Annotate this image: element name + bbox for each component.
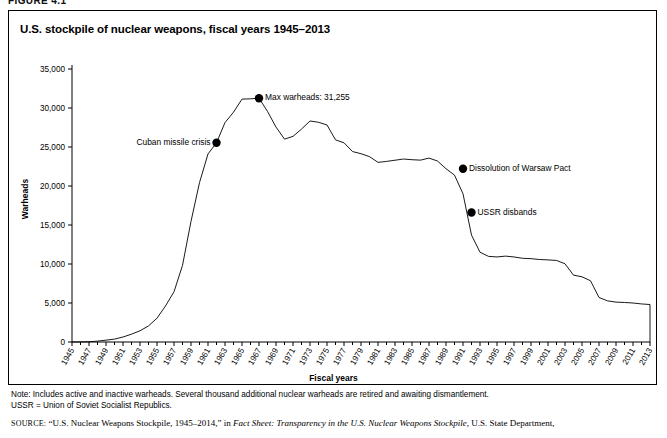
svg-text:1975: 1975 (314, 346, 331, 367)
line-chart: 05,00010,00015,00020,00025,00030,00035,0… (9, 11, 658, 386)
figure-notes: Note: Includes active and inactive warhe… (11, 390, 656, 411)
svg-text:2003: 2003 (552, 346, 569, 367)
svg-text:20,000: 20,000 (40, 182, 65, 191)
svg-text:1977: 1977 (331, 346, 348, 367)
svg-text:1953: 1953 (127, 346, 144, 367)
svg-text:1961: 1961 (195, 346, 212, 367)
svg-text:1949: 1949 (93, 346, 110, 367)
annotation-dot (467, 208, 475, 216)
svg-text:1999: 1999 (518, 346, 535, 367)
svg-text:1973: 1973 (297, 346, 314, 367)
note-line-2: USSR = Union of Soviet Socialist Republi… (11, 401, 656, 412)
annotation-label: USSR disbands (478, 208, 537, 217)
annotation-label: Max warheads: 31,255 (265, 93, 350, 102)
svg-text:0: 0 (60, 338, 65, 347)
svg-text:1959: 1959 (178, 346, 195, 367)
figure-border-box: U.S. stockpile of nuclear weapons, fisca… (8, 10, 657, 385)
svg-text:15,000: 15,000 (40, 221, 65, 230)
svg-text:1963: 1963 (212, 346, 229, 367)
svg-text:25,000: 25,000 (40, 143, 65, 152)
svg-text:1995: 1995 (484, 346, 501, 367)
svg-text:2001: 2001 (535, 346, 552, 367)
note-line-1: Note: Includes active and inactive warhe… (11, 390, 656, 401)
svg-text:1989: 1989 (433, 346, 450, 367)
svg-text:2011: 2011 (621, 346, 638, 366)
y-axis-label: Warheads (20, 179, 30, 219)
svg-text:1971: 1971 (280, 346, 297, 367)
annotation-label: Dissolution of Warsaw Pact (469, 164, 571, 173)
y-axis-label-holder: Warheads (31, 11, 32, 386)
figure-page: FIGURE 4.1 U.S. stockpile of nuclear wea… (0, 0, 667, 438)
x-axis-label: Fiscal years (9, 373, 658, 383)
svg-text:1985: 1985 (399, 346, 416, 367)
source-italic-title: Fact Sheet: Transparency in the U.S. Nuc… (233, 418, 467, 428)
svg-text:1993: 1993 (467, 346, 484, 367)
svg-text:2009: 2009 (603, 346, 620, 367)
svg-text:1969: 1969 (263, 346, 280, 367)
svg-text:1951: 1951 (110, 346, 127, 367)
svg-text:2013: 2013 (637, 346, 654, 367)
svg-text:10,000: 10,000 (40, 260, 65, 269)
svg-text:1983: 1983 (382, 346, 399, 367)
svg-text:1965: 1965 (229, 346, 246, 367)
source-part-2: , U.S. State Department, (467, 418, 555, 428)
source-prefix: SOURCE: (11, 419, 46, 428)
svg-text:1979: 1979 (348, 346, 365, 367)
annotation-dot (212, 139, 220, 147)
svg-text:1981: 1981 (365, 346, 382, 367)
annotation-label: Cuban missile crisis (137, 138, 211, 147)
svg-text:1991: 1991 (450, 346, 467, 367)
svg-text:1987: 1987 (416, 346, 433, 367)
svg-text:1957: 1957 (161, 346, 178, 367)
svg-text:1955: 1955 (144, 346, 161, 367)
svg-text:1967: 1967 (246, 346, 263, 367)
svg-text:5,000: 5,000 (45, 299, 66, 308)
svg-text:1997: 1997 (501, 346, 518, 367)
annotation-dot (459, 165, 467, 173)
figure-number-label: FIGURE 4.1 (8, 0, 66, 7)
svg-text:30,000: 30,000 (40, 104, 65, 113)
svg-text:35,000: 35,000 (40, 65, 65, 74)
svg-text:2005: 2005 (569, 346, 586, 367)
source-part-1: “U.S. Nuclear Weapons Stockpile, 1945–20… (48, 418, 233, 428)
svg-text:2007: 2007 (586, 346, 603, 367)
annotation-dot (255, 94, 263, 102)
svg-text:1945: 1945 (59, 346, 76, 367)
svg-text:1947: 1947 (76, 346, 93, 367)
figure-source: SOURCE: “U.S. Nuclear Weapons Stockpile,… (11, 418, 667, 429)
plot-area: 05,00010,00015,00020,00025,00030,00035,0… (9, 11, 658, 386)
